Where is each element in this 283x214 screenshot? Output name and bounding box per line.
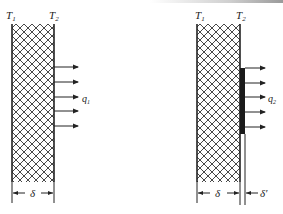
right-q2-label: q2 <box>268 93 276 105</box>
right-heat-flux-arrows <box>245 68 265 127</box>
left-t2-label: T2 <box>49 9 59 23</box>
right-delta-label: δ <box>215 187 221 199</box>
right-t1-label: T1 <box>195 9 205 23</box>
right-t2-label: T2 <box>236 9 246 23</box>
coating-thickness-dimension <box>246 191 258 195</box>
coating-layer <box>240 68 245 134</box>
left-delta-label: δ <box>30 187 36 199</box>
left-panel: T1 T2 q1 δ <box>6 9 90 203</box>
right-panel: T1 T2 q2 δ δ′ <box>195 9 276 205</box>
left-wall-hatch <box>12 24 54 182</box>
right-wall-hatch <box>197 24 240 182</box>
coating-delta-prime-label: δ′ <box>260 187 268 199</box>
left-q1-label: q1 <box>82 93 90 105</box>
left-t1-label: T1 <box>6 9 16 23</box>
heat-conduction-diagram: T1 T2 q1 δ T1 T2 <box>0 0 283 214</box>
left-heat-flux-arrows <box>54 67 78 126</box>
